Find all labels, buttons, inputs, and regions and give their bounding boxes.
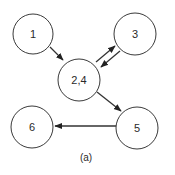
node-2-4-label: 2,4 xyxy=(71,74,86,86)
edge-2-4-to-5 xyxy=(97,92,121,111)
node-6-label: 6 xyxy=(29,121,35,133)
node-1: 1 xyxy=(13,14,53,54)
node-2-4: 2,4 xyxy=(58,59,100,101)
node-6: 6 xyxy=(11,106,53,148)
node-1-label: 1 xyxy=(30,28,36,40)
node-3: 3 xyxy=(114,13,156,55)
edge-3-to-2-4 xyxy=(101,51,120,67)
node-5: 5 xyxy=(116,107,158,149)
node-3-label: 3 xyxy=(132,28,138,40)
edge-2-4-to-3 xyxy=(96,46,115,62)
graph-diagram: 1 3 2,4 6 5 (a) xyxy=(0,0,175,175)
figure-caption: (a) xyxy=(80,152,92,163)
edge-1-to-2-4 xyxy=(50,47,63,60)
node-5-label: 5 xyxy=(134,122,140,134)
